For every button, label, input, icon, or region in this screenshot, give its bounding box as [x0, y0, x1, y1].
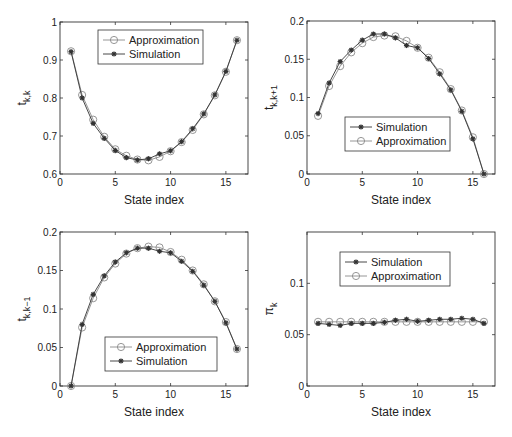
y-axis-label: tk,k	[15, 90, 32, 105]
plot-t-kk-plus-1: 05101500.050.10.150.2State indextk,k+1Si…	[262, 16, 495, 208]
simulation-star-marker	[201, 111, 206, 116]
legend-label-simulation: Simulation	[136, 355, 187, 367]
simulation-star-marker	[327, 322, 332, 327]
simulation-star-marker	[371, 321, 376, 326]
simulation-star-marker	[190, 269, 195, 274]
x-tick-label: 15	[220, 389, 232, 400]
y-tick-label: 0.1	[290, 278, 304, 289]
simulation-star-marker	[91, 121, 96, 126]
x-axis-label: State index	[124, 193, 184, 207]
y-tick-label: 1	[51, 17, 57, 28]
legend-label-approximation: Approximation	[136, 341, 206, 353]
legend-simulation-star-marker	[118, 358, 123, 363]
x-tick-label: 10	[412, 389, 424, 400]
simulation-star-marker	[68, 383, 73, 388]
simulation-star-marker	[393, 318, 398, 323]
simulation-star-marker	[179, 259, 184, 264]
simulation-star-marker	[415, 45, 420, 50]
y-tick-label: 0.05	[285, 329, 305, 340]
simulation-star-marker	[470, 317, 475, 322]
simulation-star-marker	[382, 320, 387, 325]
simulation-star-marker	[212, 92, 217, 97]
simulation-star-marker	[113, 259, 118, 264]
x-tick-label: 15	[220, 177, 232, 188]
y-tick-label: 0	[51, 381, 57, 392]
simulation-star-marker	[404, 43, 409, 48]
series-simulation	[315, 31, 486, 176]
simulation-star-marker	[360, 321, 365, 326]
y-tick-label: 0.1	[43, 304, 57, 315]
simulation-star-marker	[80, 95, 85, 100]
simulation-star-marker	[470, 136, 475, 141]
x-axis-label: State index	[371, 405, 431, 419]
simulation-star-marker	[404, 317, 409, 322]
y-axis-label: πk	[262, 302, 279, 315]
y-tick-label: 0.05	[285, 130, 305, 141]
simulation-star-marker	[201, 283, 206, 288]
simulation-star-marker	[80, 322, 85, 327]
simulation-star-marker	[338, 323, 343, 328]
y-tick-label: 0.8	[43, 93, 57, 104]
simulation-star-marker	[415, 319, 420, 324]
y-tick-label: 0.2	[43, 227, 57, 238]
simulation-star-marker	[157, 249, 162, 254]
plot-t-kk: 0510150.60.70.80.91State indextk,kApprox…	[15, 17, 248, 208]
simulation-star-marker	[315, 321, 320, 326]
x-tick-label: 0	[57, 389, 63, 400]
legend-label-simulation: Simulation	[129, 48, 180, 60]
simulation-star-marker	[124, 250, 129, 255]
series-approximation	[314, 32, 487, 178]
simulation-star-marker	[124, 155, 129, 160]
x-axis-label: State index	[124, 405, 184, 419]
simulation-star-marker	[426, 318, 431, 323]
y-tick-label: 0.2	[290, 16, 304, 27]
simulation-star-marker	[234, 346, 239, 351]
x-axis-label: State index	[371, 193, 431, 207]
legend-label-approximation: Approximation	[376, 135, 446, 147]
simulation-star-marker	[459, 109, 464, 114]
y-tick-label: 0.7	[43, 131, 57, 142]
legend: ApproximationSimulation	[98, 30, 203, 64]
simulation-star-marker	[223, 69, 228, 74]
simulation-star-marker	[437, 317, 442, 322]
simulation-star-marker	[102, 136, 107, 141]
plot-t-kk-minus-1: 05101500.050.10.150.2State indextk,k−1Ap…	[15, 227, 248, 420]
simulation-star-marker	[157, 151, 162, 156]
x-tick-label: 10	[165, 389, 177, 400]
simulation-star-marker	[426, 56, 431, 61]
simulation-star-marker	[68, 49, 73, 54]
simulation-star-marker	[448, 317, 453, 322]
simulation-star-marker	[212, 299, 217, 304]
simulation-star-marker	[349, 47, 354, 52]
simulation-star-marker	[146, 246, 151, 251]
simulation-star-marker	[382, 31, 387, 36]
simulation-star-marker	[481, 321, 486, 326]
simulation-star-marker	[338, 59, 343, 64]
legend-simulation-star-marker	[358, 124, 363, 129]
y-tick-label: 0.15	[285, 54, 305, 65]
simulation-star-marker	[113, 148, 118, 153]
simulation-star-marker	[371, 31, 376, 36]
x-tick-label: 10	[412, 177, 424, 188]
x-tick-label: 0	[304, 389, 310, 400]
legend: SimulationApproximation	[345, 117, 450, 151]
y-tick-label: 0.15	[38, 265, 58, 276]
y-tick-label: 0.05	[38, 342, 58, 353]
simulation-star-marker	[234, 38, 239, 43]
simulation-star-marker	[135, 157, 140, 162]
legend-simulation-star-marker	[111, 51, 116, 56]
legend: ApproximationSimulation	[105, 337, 217, 371]
x-tick-label: 15	[467, 177, 479, 188]
simulation-star-marker	[459, 316, 464, 321]
legend-label-simulation: Simulation	[371, 256, 422, 268]
simulation-star-marker	[146, 156, 151, 161]
y-tick-label: 0.6	[43, 169, 57, 180]
simulation-star-marker	[168, 250, 173, 255]
x-tick-label: 5	[113, 177, 119, 188]
simulation-star-marker	[448, 87, 453, 92]
simulation-star-marker	[437, 71, 442, 76]
y-tick-label: 0	[298, 169, 304, 180]
x-tick-label: 5	[360, 177, 366, 188]
y-tick-label: 0	[298, 381, 304, 392]
simulation-star-marker	[135, 246, 140, 251]
